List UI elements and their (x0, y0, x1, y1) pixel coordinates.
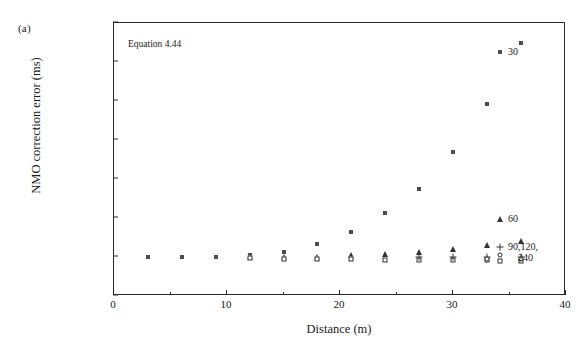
data-point (349, 257, 354, 262)
figure-container: (a) NMO correction error (ms) Distance (… (0, 0, 581, 349)
legend-label: 60 (508, 213, 518, 224)
data-point (484, 242, 490, 248)
data-point (450, 246, 456, 252)
data-point (315, 257, 320, 262)
x-tick-label: 20 (319, 298, 359, 310)
data-point (416, 254, 423, 261)
legend-marker (498, 253, 503, 258)
data-point (484, 257, 489, 262)
legend-label: 30 (508, 46, 518, 57)
legend-label: 90,120, (508, 241, 538, 252)
data-point (450, 254, 457, 261)
y-axis-label: NMO correction error (ms) (29, 26, 44, 226)
plot-area: Equation 4.44 306090,120,240 (113, 22, 565, 295)
data-point (383, 211, 387, 215)
data-point (180, 255, 184, 259)
data-point (349, 230, 353, 234)
legend-label: 240 (518, 252, 533, 263)
legend-marker (497, 244, 504, 251)
data-point (451, 150, 455, 154)
x-tick-label: 30 (432, 298, 472, 310)
data-point (281, 256, 286, 261)
data-point (485, 102, 489, 106)
data-point (214, 255, 218, 259)
x-axis-label: Distance (m) (113, 322, 565, 337)
data-point (417, 187, 421, 191)
x-tick-label: 40 (545, 298, 581, 310)
legend-marker (498, 259, 503, 264)
data-point (382, 251, 388, 257)
data-point (247, 256, 252, 261)
x-tick-mark (565, 290, 566, 295)
data-point (519, 41, 523, 45)
x-tick-label: 10 (206, 298, 246, 310)
data-point (383, 257, 388, 262)
equation-annotation: Equation 4.44 (128, 39, 181, 49)
data-point (146, 255, 150, 259)
x-tick-label: 0 (93, 298, 133, 310)
data-point (315, 242, 319, 246)
legend-marker (498, 50, 502, 54)
legend-marker (497, 216, 503, 222)
